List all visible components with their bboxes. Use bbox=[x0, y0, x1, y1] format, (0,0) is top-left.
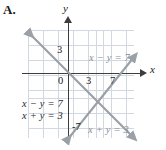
tick-label-x-3: 3 bbox=[86, 75, 91, 86]
plotted-lines bbox=[0, 0, 166, 150]
coordinate-graph: x y 0 3 7 3 -7 x − y = 7 x + y = 3 bbox=[0, 0, 166, 150]
figure-container: A. x y 0 3 7 3 -7 x − y = 7 x + y = 3 x … bbox=[0, 0, 166, 150]
line-annotation-x-plus-y-equals-3: x + y = 3 bbox=[88, 124, 129, 135]
system-equation-2: x + y = 3 bbox=[22, 110, 63, 121]
tick-label-y-3: 3 bbox=[57, 44, 62, 55]
tick-label-x-7: 7 bbox=[110, 75, 115, 86]
tick-label-y-negative-7: -7 bbox=[72, 121, 81, 132]
system-equation-1: x − y = 7 bbox=[22, 98, 63, 109]
line-annotation-x-minus-y-equals-7: x − y = 7 bbox=[89, 52, 130, 63]
tick-label-origin: 0 bbox=[58, 75, 63, 86]
